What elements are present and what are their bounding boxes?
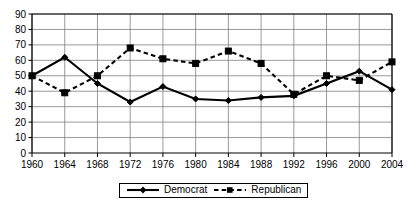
data-point-marker-democrat [225,97,231,103]
x-axis-tick-label: 2000 [348,159,371,170]
data-point-marker-republican [160,56,166,62]
x-axis-tick-label: 1984 [217,159,240,170]
y-axis-tick-label: 90 [15,9,27,20]
data-point-marker-republican [258,60,264,66]
axes-group [32,14,392,153]
data-point-marker-republican [356,77,362,83]
x-axis-tick-label: 1960 [21,159,44,170]
line-chart-plot: 0102030405060708090196019641968197219761… [0,0,408,207]
gridlines-group [32,14,392,153]
data-point-marker-republican [291,91,297,97]
y-axis-tick-label: 20 [15,117,27,128]
data-point-marker-republican [389,59,395,65]
legend-item-democrat: Democrat [126,185,207,195]
data-point-marker-republican [62,90,68,96]
x-axis-tick-label: 1992 [283,159,306,170]
x-axis-tick-label: 1976 [152,159,175,170]
series-group [29,45,395,105]
x-axis-tick-label: 1996 [315,159,338,170]
legend-label-democrat: Democrat [164,185,207,195]
chart-legend: Democrat Republican [119,183,308,198]
y-axis-tick-label: 50 [15,70,27,81]
chart-container: 0102030405060708090196019641968197219761… [0,0,408,207]
y-axis-tick-label: 0 [20,148,26,159]
legend-item-republican: Republican [213,185,301,195]
tickmarks-group [29,14,393,157]
data-point-marker-democrat [324,81,330,87]
x-axis-tick-label: 2004 [381,159,404,170]
republican-line-swatch-icon [213,185,247,195]
legend-label-republican: Republican [251,185,301,195]
axis-labels-group: 0102030405060708090196019641968197219761… [15,9,404,171]
y-axis-tick-label: 40 [15,86,27,97]
x-axis-tick-label: 1980 [185,159,208,170]
y-axis-tick-label: 70 [15,39,27,50]
y-axis-tick-label: 60 [15,55,27,66]
series-line-republican [32,48,392,94]
data-point-marker-republican [94,73,100,79]
series-line-democrat [32,57,392,102]
data-point-marker-republican [225,48,231,54]
y-axis-tick-label: 30 [15,101,27,112]
x-axis-tick-label: 1972 [119,159,142,170]
data-point-marker-republican [324,73,330,79]
data-point-marker-republican [193,60,199,66]
data-point-marker-republican [29,73,35,79]
x-axis-tick-label: 1968 [86,159,109,170]
y-axis-tick-label: 80 [15,24,27,35]
data-point-marker-democrat [193,96,199,102]
data-point-marker-republican [127,45,133,51]
x-axis-tick-label: 1988 [250,159,273,170]
x-axis-tick-label: 1964 [54,159,77,170]
data-point-marker-democrat [258,94,264,100]
y-axis-tick-label: 10 [15,132,27,143]
democrat-line-swatch-icon [126,185,160,195]
